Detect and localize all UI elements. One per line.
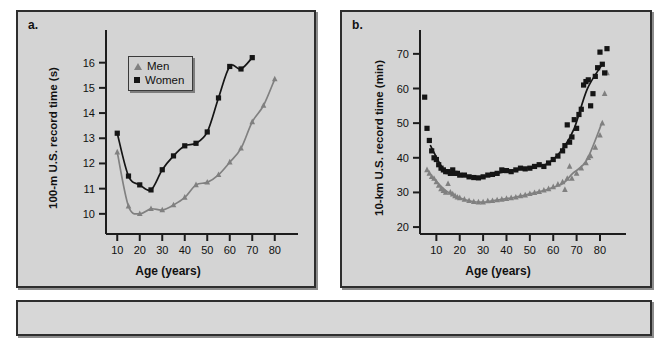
svg-text:11: 11 bbox=[84, 183, 95, 195]
svg-text:10: 10 bbox=[430, 244, 442, 256]
legend-label-women: Women bbox=[145, 74, 184, 86]
square-marker-icon bbox=[134, 77, 140, 83]
svg-text:12: 12 bbox=[83, 157, 95, 169]
svg-text:70: 70 bbox=[570, 244, 582, 256]
svg-text:60: 60 bbox=[547, 244, 559, 256]
svg-text:60: 60 bbox=[397, 83, 409, 95]
svg-text:30: 30 bbox=[156, 244, 168, 256]
svg-text:20: 20 bbox=[134, 244, 146, 256]
svg-text:50: 50 bbox=[201, 244, 213, 256]
figure-root: a. 100-m U.S. record time (s) 1011121314… bbox=[0, 0, 668, 340]
legend-label-men: Men bbox=[147, 60, 169, 72]
chart-panel-a: a. 100-m U.S. record time (s) 1011121314… bbox=[16, 10, 316, 288]
svg-text:10: 10 bbox=[111, 244, 123, 256]
svg-text:70: 70 bbox=[397, 48, 409, 60]
legend-item-men-a: Men bbox=[134, 59, 184, 73]
chart-panel-b: b. 10-km U.S. record time (min) 20304050… bbox=[340, 10, 652, 288]
svg-text:13: 13 bbox=[83, 132, 95, 144]
svg-text:40: 40 bbox=[397, 152, 409, 164]
svg-text:15: 15 bbox=[83, 82, 95, 94]
svg-text:30: 30 bbox=[397, 186, 409, 198]
svg-text:10: 10 bbox=[83, 208, 95, 220]
caption-box bbox=[16, 300, 652, 336]
plot-area-a: 101112131415161020304050607080 bbox=[18, 12, 318, 290]
svg-text:14: 14 bbox=[83, 107, 95, 119]
x-axis-title-a: Age (years) bbox=[38, 264, 298, 278]
svg-text:80: 80 bbox=[594, 244, 606, 256]
triangle-marker-icon bbox=[134, 63, 142, 70]
svg-text:40: 40 bbox=[179, 244, 191, 256]
x-axis-title-b: Age (years) bbox=[366, 264, 630, 278]
svg-text:50: 50 bbox=[524, 244, 536, 256]
svg-text:30: 30 bbox=[477, 244, 489, 256]
svg-text:50: 50 bbox=[397, 117, 409, 129]
svg-text:80: 80 bbox=[269, 244, 281, 256]
svg-text:40: 40 bbox=[500, 244, 512, 256]
svg-text:60: 60 bbox=[224, 244, 236, 256]
svg-text:16: 16 bbox=[83, 57, 95, 69]
svg-text:70: 70 bbox=[246, 244, 258, 256]
svg-text:20: 20 bbox=[454, 244, 466, 256]
legend-item-women-a: Women bbox=[134, 73, 184, 87]
legend-a: Men Women bbox=[128, 56, 193, 91]
plot-area-b: 2030405060701020304050607080 bbox=[342, 12, 654, 290]
svg-text:20: 20 bbox=[397, 221, 409, 233]
